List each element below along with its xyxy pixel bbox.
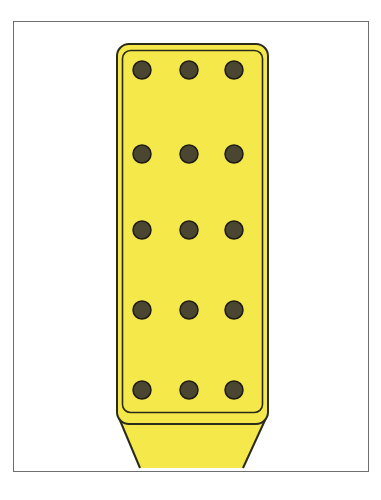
- plate-diagram: [0, 0, 381, 500]
- hole-icon: [225, 381, 243, 399]
- hole-icon: [225, 61, 243, 79]
- hole-icon: [133, 61, 151, 79]
- hole-icon: [180, 381, 198, 399]
- hole-icon: [133, 381, 151, 399]
- hole-icon: [180, 301, 198, 319]
- hole-icon: [133, 145, 151, 163]
- plate-taper: [119, 418, 266, 468]
- hole-icon: [133, 221, 151, 239]
- hole-icon: [225, 221, 243, 239]
- hole-icon: [180, 61, 198, 79]
- hole-icon: [225, 145, 243, 163]
- hole-icon: [133, 301, 151, 319]
- hole-icon: [180, 145, 198, 163]
- hole-icon: [225, 301, 243, 319]
- hole-icon: [180, 221, 198, 239]
